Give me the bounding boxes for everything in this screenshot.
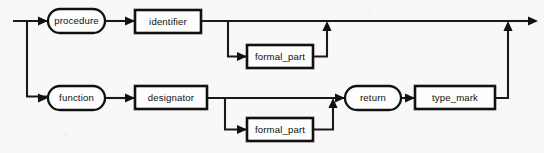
node-designator[interactable]: designator xyxy=(135,86,207,109)
railroad-diagram: procedure identifier formal_part functio… xyxy=(0,0,544,153)
procedure-label: procedure xyxy=(54,15,99,26)
top-rail-to-formal-part xyxy=(228,21,247,57)
node-type-mark[interactable]: type_mark xyxy=(415,86,495,109)
node-identifier[interactable]: identifier xyxy=(135,10,201,33)
arrow-into-formal-part-lower xyxy=(237,125,247,134)
entry-split-to-function xyxy=(27,21,48,97)
railroad-canvas: procedure identifier formal_part functio… xyxy=(0,0,544,153)
type-mark-to-exit xyxy=(495,25,508,98)
arrow-into-type-mark xyxy=(405,93,415,102)
arrow-formal-part-upper-join xyxy=(322,21,331,31)
formal-part-lower-label: formal_part xyxy=(255,124,305,135)
identifier-label: identifier xyxy=(149,16,187,27)
lower-rail-to-formal-part xyxy=(225,98,247,130)
node-procedure[interactable]: procedure xyxy=(48,9,105,33)
node-return[interactable]: return xyxy=(345,86,401,110)
node-formal-part-upper[interactable]: formal_part xyxy=(247,45,313,68)
arrow-into-function xyxy=(38,93,48,102)
node-function[interactable]: function xyxy=(48,86,105,110)
arrow-into-procedure xyxy=(38,16,48,25)
arrow-into-designator xyxy=(125,93,135,102)
arrow-into-identifier xyxy=(125,16,135,25)
type-mark-label: type_mark xyxy=(432,92,478,103)
arrow-into-return xyxy=(335,93,345,102)
designator-label: designator xyxy=(148,92,195,103)
arrow-exit xyxy=(528,16,538,25)
node-formal-part-lower[interactable]: formal_part xyxy=(247,118,313,141)
function-label: function xyxy=(59,92,94,103)
return-label: return xyxy=(360,92,386,103)
formal-part-upper-label: formal_part xyxy=(255,51,305,62)
arrow-into-formal-part-upper xyxy=(237,52,247,61)
arrow-type-mark-join xyxy=(503,21,512,31)
